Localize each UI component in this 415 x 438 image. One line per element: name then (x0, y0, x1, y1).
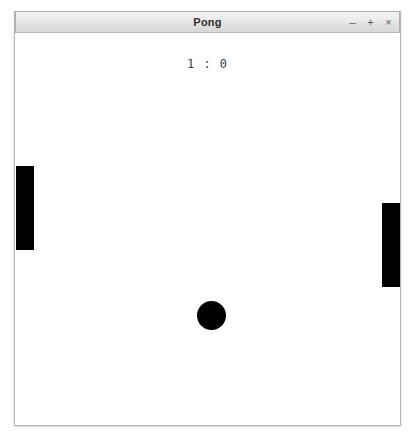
ball (197, 301, 226, 330)
game-field[interactable]: 1 : 0 (15, 33, 400, 425)
right-paddle[interactable] (382, 203, 400, 287)
window-titlebar[interactable]: Pong – + × (15, 11, 400, 33)
minimize-icon[interactable]: – (347, 15, 358, 29)
score-display: 1 : 0 (15, 57, 400, 71)
left-paddle[interactable] (16, 166, 34, 250)
window-controls: – + × (347, 12, 394, 32)
pong-window: Pong – + × 1 : 0 (14, 11, 401, 426)
close-icon[interactable]: × (383, 15, 394, 29)
maximize-icon[interactable]: + (365, 15, 376, 29)
window-title: Pong (193, 17, 221, 28)
screen: Pong – + × 1 : 0 (0, 0, 415, 438)
